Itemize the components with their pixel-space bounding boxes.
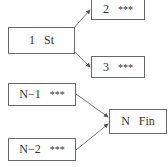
node-n-finish: N Fin xyxy=(109,109,167,134)
node-1-start: 1 St xyxy=(8,27,75,54)
edge-nm1-to-fin xyxy=(76,94,108,117)
node-label: St xyxy=(44,33,54,48)
node-3: 3 *** xyxy=(91,56,145,78)
node-2: 2 *** xyxy=(91,0,145,20)
node-label: *** xyxy=(50,144,65,155)
node-number: N xyxy=(121,114,130,129)
node-label: Fin xyxy=(139,114,155,129)
node-label: *** xyxy=(50,89,65,100)
node-number: N−2 xyxy=(19,142,40,157)
node-number: 2 xyxy=(103,2,109,17)
node-n-minus-2: N−2 *** xyxy=(8,138,76,161)
edge-nm2-to-fin xyxy=(76,124,108,150)
node-number: 3 xyxy=(103,60,109,75)
node-number: N−1 xyxy=(19,87,40,102)
node-number: 1 xyxy=(29,33,35,48)
node-n-minus-1: N−1 *** xyxy=(8,83,76,106)
node-label: *** xyxy=(118,4,133,15)
node-label: *** xyxy=(118,62,133,73)
